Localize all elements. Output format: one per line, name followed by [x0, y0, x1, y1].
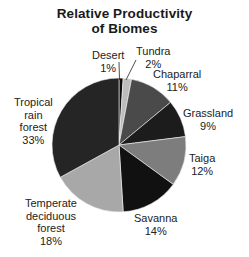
- pie-slices: [52, 78, 186, 212]
- label-taiga: Taiga 12%: [189, 152, 215, 177]
- label-grassland: Grassland 9%: [183, 107, 233, 132]
- label-tropical-rain-forest: Tropical rain forest 33%: [14, 96, 53, 146]
- label-desert: Desert 1%: [92, 49, 124, 74]
- label-temperate-deciduous-forest: Temperate deciduous forest 18%: [25, 197, 77, 247]
- tundra-leader-line: [126, 60, 136, 80]
- label-tundra: Tundra 2%: [136, 45, 170, 70]
- label-chaparral: Chaparral 11%: [153, 68, 201, 93]
- label-savanna: Savanna 14%: [134, 212, 177, 237]
